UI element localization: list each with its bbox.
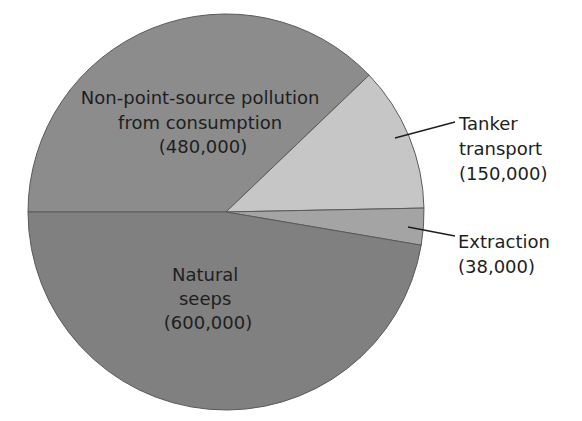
label-line: Non-point-source pollution — [81, 87, 320, 108]
slice-label-tanker: Tanker transport (150,000) — [458, 113, 548, 184]
label-value: (600,000) — [164, 312, 252, 333]
label-line: Extraction — [458, 231, 550, 252]
label-line: seeps — [179, 288, 231, 309]
label-value: (480,000) — [159, 136, 247, 157]
label-line: Natural — [172, 264, 238, 285]
label-line: from consumption — [118, 112, 282, 133]
slice-label-extraction: Extraction (38,000) — [458, 231, 556, 277]
label-line: Tanker — [458, 113, 518, 134]
pie-slice-natural-seeps — [28, 212, 421, 410]
label-line: transport — [459, 138, 542, 159]
pie-slices — [28, 14, 424, 410]
pie-chart: Non-point-source pollution from consumpt… — [0, 0, 582, 421]
label-value: (38,000) — [458, 256, 535, 277]
label-value: (150,000) — [459, 163, 547, 184]
